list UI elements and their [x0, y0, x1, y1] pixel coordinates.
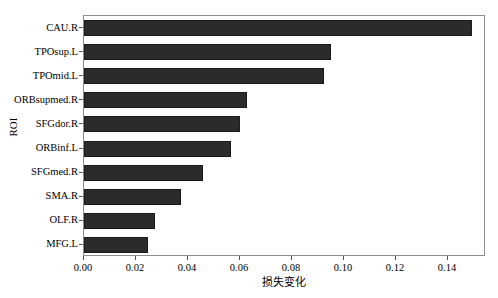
y-tick-label-sfgdor-r: SFGdor.R: [8, 118, 78, 129]
y-tick-mark: [79, 172, 83, 173]
x-tick-mark: [187, 256, 188, 260]
y-tick-mark: [79, 75, 83, 76]
y-axis-tick-labels: CAU.RTPOsup.LTPOmid.LORBsupmed.RSFGdor.R…: [4, 15, 78, 256]
y-tick-mark: [79, 220, 83, 221]
bars-layer: [84, 16, 484, 255]
bar-mfg-l: [84, 237, 148, 253]
bar-orbsupmed-r: [84, 92, 247, 108]
x-tick-mark: [239, 256, 240, 260]
x-tick-mark: [83, 256, 84, 260]
x-tick-label-0.10: 0.10: [323, 262, 363, 274]
y-tick-mark: [79, 123, 83, 124]
x-tick-mark: [343, 256, 344, 260]
y-tick-label-orbinf-l: ORBinf.L: [8, 142, 78, 153]
y-tick-label-sma-r: SMA.R: [8, 190, 78, 201]
plot-area: [83, 15, 485, 256]
x-tick-label-0.08: 0.08: [271, 262, 311, 274]
chart-figure: ROI CAU.RTPOsup.LTPOmid.LORBsupmed.RSFGd…: [0, 0, 498, 298]
y-tick-mark: [79, 51, 83, 52]
x-tick-label-0.00: 0.00: [63, 262, 103, 274]
y-tick-label-orbsupmed-r: ORBsupmed.R: [8, 94, 78, 105]
bar-sfgdor-r: [84, 116, 240, 132]
y-tick-label-cau-r: CAU.R: [8, 22, 78, 33]
bar-cau-r: [84, 20, 472, 36]
x-axis-label: 损失变化: [83, 276, 485, 290]
x-tick-label-0.04: 0.04: [167, 262, 207, 274]
x-tick-mark: [395, 256, 396, 260]
x-tick-label-0.06: 0.06: [219, 262, 259, 274]
x-tick-mark: [291, 256, 292, 260]
y-tick-mark: [79, 99, 83, 100]
bar-olf-r: [84, 213, 155, 229]
bar-tposup-l: [84, 44, 331, 60]
y-tick-mark: [79, 27, 83, 28]
y-tick-mark: [79, 196, 83, 197]
x-tick-mark: [447, 256, 448, 260]
bar-orbinf-l: [84, 141, 231, 157]
y-tick-label-tposup-l: TPOsup.L: [8, 46, 78, 57]
bar-sfgmed-r: [84, 165, 203, 181]
y-tick-label-mfg-l: MFG.L: [8, 238, 78, 249]
y-tick-mark: [79, 148, 83, 149]
bar-tpomid-l: [84, 68, 324, 84]
x-tick-label-0.14: 0.14: [427, 262, 467, 274]
y-tick-mark: [79, 244, 83, 245]
chart-title: [0, 0, 498, 2]
x-tick-mark: [135, 256, 136, 260]
y-tick-label-olf-r: OLF.R: [8, 214, 78, 225]
x-tick-label-0.02: 0.02: [115, 262, 155, 274]
y-tick-label-tpomid-l: TPOmid.L: [8, 70, 78, 81]
y-tick-label-sfgmed-r: SFGmed.R: [8, 166, 78, 177]
x-tick-label-0.12: 0.12: [375, 262, 415, 274]
bar-sma-r: [84, 189, 181, 205]
